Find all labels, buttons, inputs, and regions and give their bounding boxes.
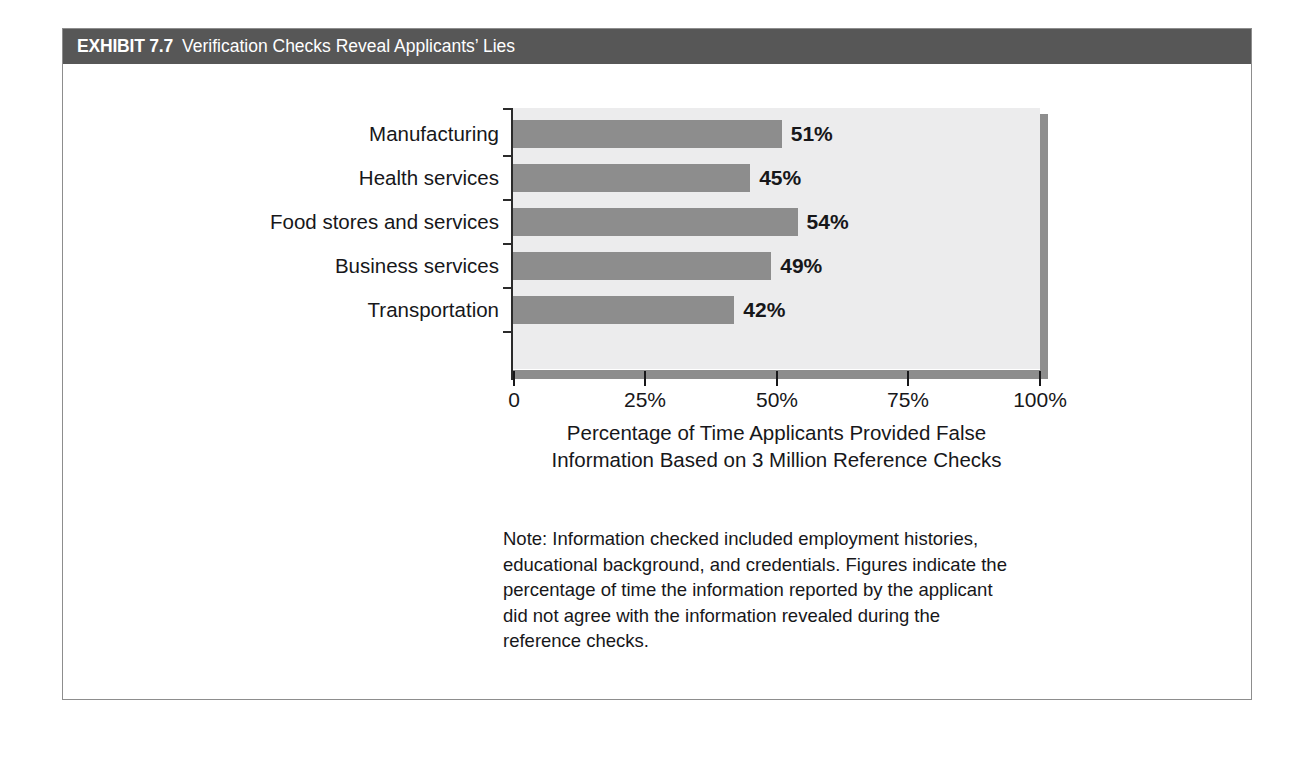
note-line-5: reference checks. [503, 628, 1023, 654]
exhibit-title-label: Verification Checks Reveal Applicants’ L… [182, 36, 515, 57]
x-axis-tick [513, 371, 515, 386]
y-axis-tick [503, 331, 512, 333]
bar-business-services [513, 252, 771, 280]
x-tick-label-50: 50% [756, 388, 798, 412]
category-label-transportation: Transportation [73, 296, 513, 324]
exhibit-container: EXHIBIT 7.7 Verification Checks Reveal A… [62, 28, 1252, 700]
note-line-1: Note: Information checked included emplo… [503, 526, 1023, 552]
category-label-food-stores-and-services: Food stores and services [73, 208, 513, 236]
plot-right-shadow [1040, 114, 1048, 379]
bar-value-transportation: 42% [743, 296, 785, 324]
bar-value-health-services: 45% [759, 164, 801, 192]
x-axis-tick [907, 371, 909, 386]
x-axis-tick [776, 371, 778, 386]
category-label-health-services: Health services [73, 164, 513, 192]
x-tick-label-100: 100% [1013, 388, 1067, 412]
bar-food-stores-and-services [513, 208, 798, 236]
chart-note: Note: Information checked included emplo… [503, 526, 1023, 654]
x-tick-label-0: 0 [508, 388, 520, 412]
bar-value-business-services: 49% [780, 252, 822, 280]
chart-area: Manufacturing Health services Food store… [63, 64, 1251, 699]
x-axis-title-line-2: Information Based on 3 Million Reference… [513, 446, 1040, 473]
y-axis-tick [503, 199, 512, 201]
y-axis-tick [503, 155, 512, 157]
y-axis-tick [503, 243, 512, 245]
x-axis-tick [644, 371, 646, 386]
x-tick-label-25: 25% [624, 388, 666, 412]
x-tick-label-75: 75% [887, 388, 929, 412]
x-axis-baseline [513, 370, 1048, 379]
y-axis-tick [503, 287, 512, 289]
category-label-manufacturing: Manufacturing [73, 120, 513, 148]
exhibit-header-bar: EXHIBIT 7.7 Verification Checks Reveal A… [63, 29, 1251, 64]
y-axis-tick [503, 108, 512, 110]
exhibit-number-label: EXHIBIT 7.7 [77, 36, 173, 57]
bar-transportation [513, 296, 734, 324]
x-axis-tick [1039, 371, 1041, 386]
bar-value-food-stores-and-services: 54% [807, 208, 849, 236]
bar-value-manufacturing: 51% [791, 120, 833, 148]
category-label-business-services: Business services [73, 252, 513, 280]
x-axis-title-line-1: Percentage of Time Applicants Provided F… [513, 419, 1040, 446]
bar-manufacturing [513, 120, 782, 148]
x-axis-title: Percentage of Time Applicants Provided F… [513, 419, 1040, 473]
note-line-4: did not agree with the information revea… [503, 603, 1023, 629]
bar-health-services [513, 164, 750, 192]
note-line-2: educational background, and credentials.… [503, 552, 1023, 578]
note-line-3: percentage of time the information repor… [503, 577, 1023, 603]
